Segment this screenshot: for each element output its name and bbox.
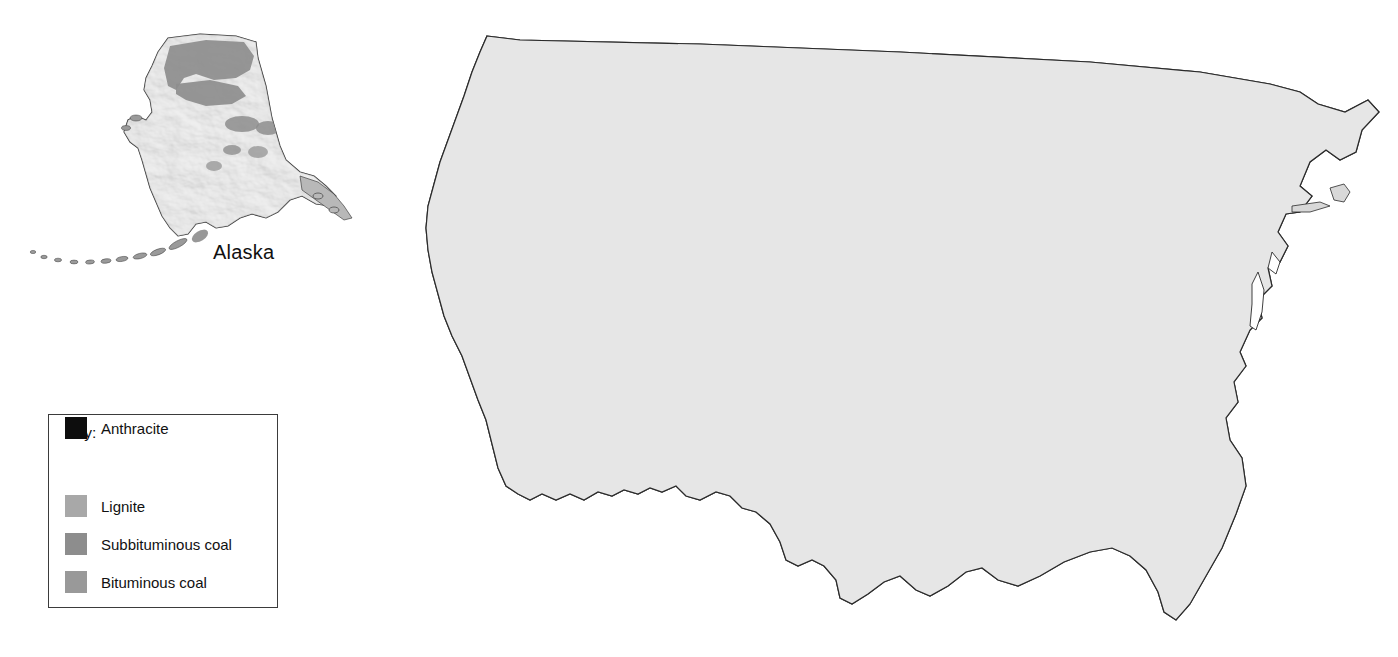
usa-coastline bbox=[426, 36, 1379, 620]
cape-cod bbox=[1330, 184, 1350, 202]
legend-label-anthracite: Anthracite bbox=[101, 420, 169, 437]
legend-item-lignite: Lignite bbox=[65, 493, 145, 519]
legend-swatch-subbituminous bbox=[65, 533, 87, 555]
legend-label-subbituminous: Subbituminous coal bbox=[101, 536, 232, 553]
map-legend: Key: Lignite Subbituminous coal Bitumino… bbox=[48, 414, 278, 608]
legend-item-anthracite: Anthracite bbox=[65, 415, 169, 441]
legend-item-subbituminous: Subbituminous coal bbox=[65, 531, 232, 557]
legend-item-bituminous: Bituminous coal bbox=[65, 569, 207, 595]
conterminous-us bbox=[410, 30, 1390, 630]
legend-swatch-bituminous bbox=[65, 571, 87, 593]
legend-label-lignite: Lignite bbox=[101, 498, 145, 515]
alaska-label: Alaska bbox=[213, 241, 274, 264]
legend-label-bituminous: Bituminous coal bbox=[101, 574, 207, 591]
alaska-inset bbox=[30, 28, 360, 264]
alaska-deposit-cook-inlet bbox=[190, 227, 211, 245]
legend-swatch-anthracite bbox=[65, 417, 87, 439]
coal-deposits-map: Alaska Key: Lignite Subbituminous coal B… bbox=[0, 0, 1398, 657]
legend-swatch-lignite bbox=[65, 495, 87, 517]
